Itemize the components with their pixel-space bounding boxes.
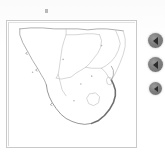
marker-mpumalanga [91,75,93,77]
arrow-button-3[interactable] [149,82,162,95]
marker-zimbabwe [101,45,103,47]
arrow-button-1[interactable] [148,33,163,48]
border-caprivi [66,34,99,35]
triangle-left-icon [153,37,158,45]
arrow-button-2[interactable] [148,57,163,72]
border-botswana-zimbabwe [86,35,102,67]
southern-africa-map[interactable] [7,21,136,147]
coastline-shaded-eastern-cape [92,80,116,123]
coastal-notch-walvis [26,52,28,55]
top-tick-mark [45,9,48,13]
border-southafrica-mozambique [102,68,112,80]
country-outline-namibia [20,29,47,85]
border-internal-nc-fs [58,74,66,96]
border-namibia-botswana [56,29,66,78]
app-root [0,0,165,154]
triangle-left-icon [153,61,158,69]
border-botswana-southafrica [56,67,86,79]
marker-botswana [62,59,64,61]
border-zimbabwe-mozambique [102,30,121,68]
northern-boundary [20,28,123,31]
coastline-western-cape [46,85,91,124]
border-zimbabwe-south [86,67,102,68]
marker-eastern-cape [73,100,75,102]
triangle-left-icon [154,86,158,92]
coastal-notch-luderitz [36,68,38,71]
map-panel[interactable] [6,20,137,148]
border-lesotho [87,93,100,106]
marker-namibia [32,71,34,73]
marker-south-africa [80,83,82,85]
coastal-notch-capepoint [50,103,52,106]
